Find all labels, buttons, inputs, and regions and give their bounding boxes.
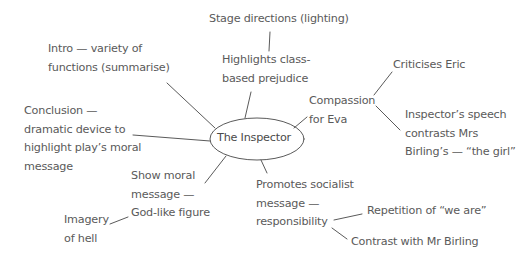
node-stage-directions: Stage directions (lighting)	[209, 10, 349, 29]
node-imagery-hell: Imagery of hell	[64, 211, 109, 248]
link-compassion-speech	[376, 106, 400, 130]
link-center-promotes	[261, 160, 267, 173]
mind-map-canvas: The Inspector Stage directions (lighting…	[0, 0, 528, 261]
node-compassion: Compassion for Eva	[309, 92, 375, 129]
node-promotes-socialist: Promotes socialist message — responsibil…	[256, 176, 354, 232]
link-highlights-stage	[269, 32, 270, 51]
center-node-label: The Inspector	[217, 131, 291, 144]
node-criticises-eric: Criticises Eric	[393, 56, 465, 75]
link-compassion-eric	[374, 72, 392, 95]
link-center-intro	[167, 83, 215, 128]
link-center-highlights	[245, 92, 251, 118]
node-inspectors-speech: Inspector’s speech contrasts Mrs Birling…	[405, 106, 516, 162]
node-repetition: Repetition of “we are”	[367, 202, 486, 221]
link-showmoral-imagery	[110, 217, 128, 224]
node-show-moral: Show moral message — God-like figure	[131, 167, 210, 223]
node-intro: Intro — variety of functions (summarise)	[48, 40, 170, 77]
link-center-compassion	[294, 117, 307, 128]
link-center-conclusion	[133, 135, 210, 141]
node-conclusion: Conclusion — dramatic device to highligh…	[24, 102, 141, 176]
node-contrast-birling: Contrast with Mr Birling	[351, 233, 478, 252]
node-highlights-class: Highlights class- based prejudice	[222, 51, 310, 88]
